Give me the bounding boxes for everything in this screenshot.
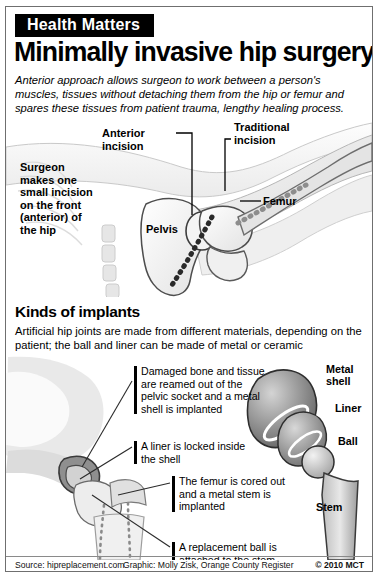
label-metal-shell: Metal shell — [326, 363, 370, 388]
hip-anatomy-illustration: Surgeon makes one small incision on the … — [6, 119, 372, 297]
label-traditional-incision: Traditional incision — [234, 121, 316, 146]
kicker-banner: Health Matters — [15, 14, 154, 37]
deck-text: Anterior approach allows surgeon to work… — [15, 73, 367, 116]
label-anterior-incision: Anterior incision — [102, 127, 172, 152]
callout-liner-locked: A liner is locked inside the shell — [134, 440, 261, 465]
footer-divider — [6, 556, 372, 557]
label-ball: Ball — [338, 435, 358, 447]
ball-component — [302, 446, 334, 478]
label-liner: Liner — [335, 402, 361, 414]
section-title-implants: Kinds of implants — [15, 303, 140, 321]
label-femur: Femur — [263, 195, 297, 208]
label-surgeon-incision: Surgeon makes one small incision on the … — [20, 161, 94, 237]
stem-component — [322, 473, 358, 560]
callout-damaged-bone: Damaged bone and tissue are reamed out o… — [134, 365, 271, 415]
page-title: Minimally invasive hip surgery — [14, 37, 352, 67]
spine-vertebrae — [102, 225, 119, 297]
callout-femur-cored: The femur is cored out and a metal stem … — [172, 475, 291, 513]
footer-source: Source: hipreplacement.com — [15, 560, 124, 570]
kicker-label: Health Matters — [15, 14, 154, 37]
section-body-implants: Artificial hip joints are made from diff… — [15, 324, 367, 352]
label-stem: Stem — [316, 501, 342, 513]
footer-graphic-credit: Graphic: Molly Zisk, Orange County Regis… — [123, 560, 294, 570]
callout-replacement-ball: A replacement ball is attached to the st… — [172, 541, 307, 560]
label-pelvis: Pelvis — [146, 223, 178, 236]
footer-copyright: © 2010 MCT — [315, 560, 364, 570]
infographic-frame: Health Matters Minimally invasive hip su… — [5, 6, 373, 572]
implant-illustration: Damaged bone and tissue are reamed out o… — [6, 355, 372, 560]
